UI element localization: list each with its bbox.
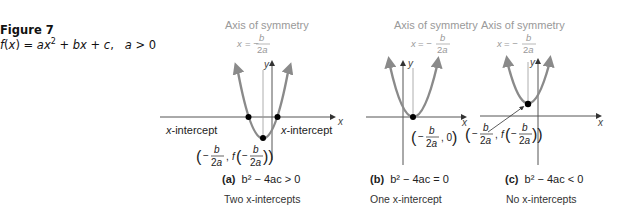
panel-c: Axis of symmetry x = − b 2a x y ( − b 2a… [465,19,604,165]
svg-text:2a: 2a [250,157,262,168]
svg-text:2a: 2a [257,44,268,55]
axis-of-symmetry-label-a: Axis of symmetry [225,19,309,31]
svg-text:x: x [496,38,503,49]
svg-text:b: b [526,32,531,43]
svg-text:x: x [337,116,344,127]
left-intercept-label: x-intercept [165,124,217,136]
vertex-point-a [260,135,266,141]
svg-text:b: b [440,32,445,43]
vertex-label-b: ( − b 2a , 0 ) [411,125,457,149]
svg-text:(: ( [196,148,202,165]
svg-text:y: y [529,57,536,68]
svg-text:= −: = − [418,38,432,49]
description-b: One x-intercept [370,193,442,205]
svg-text:x: x [597,117,604,128]
svg-text:−: − [472,128,478,139]
vertex-label-a: ( − b 2a , f ( − b 2a )) [196,144,274,168]
caption-c: (c) b² − 4ac < 0 [505,173,583,185]
svg-text:(: ( [411,129,417,146]
svg-text:−: − [203,150,209,161]
description-c: No x-intercepts [506,193,577,205]
panel-a: Axis of symmetry x = − b 2a x y x-interc… [160,19,344,168]
description-a: Two x-intercepts [224,193,300,205]
svg-text:b: b [483,122,489,133]
svg-text:−: − [418,131,424,142]
svg-text:2a: 2a [519,135,531,146]
svg-text:): ) [452,129,457,146]
svg-text:(: ( [465,126,471,143]
svg-text:x: x [236,38,243,49]
svg-text:x: x [410,38,417,49]
left-intercept-point [246,114,252,120]
svg-text:= −: = − [504,38,518,49]
svg-text:2a: 2a [211,157,223,168]
parabola-b [390,66,437,117]
caption-a: (a) b² − 4ac > 0 [222,173,300,185]
svg-text:2a: 2a [523,44,534,55]
svg-text:b: b [214,144,220,155]
svg-text:b: b [259,32,264,43]
svg-text:2a: 2a [480,135,492,146]
parabola-c [508,65,549,104]
caption-b: (b) b² − 4ac = 0 [370,173,449,185]
svg-text:−: − [511,128,517,139]
axis-of-symmetry-label-b: Axis of symmetry [394,19,478,31]
svg-text:, 0: , 0 [441,132,453,143]
vertex-point-c [525,101,531,107]
right-intercept-label: x-intercept [280,124,332,136]
vertex-point-b [410,114,416,120]
panel-b: Axis of symmetry x = − b 2a x y ( − b 2a… [366,19,478,165]
svg-text:,: , [495,129,498,140]
svg-text:−: − [242,150,248,161]
svg-text:b: b [522,122,528,133]
vertex-label-c: ( − b 2a , f ( − b 2a )) [465,122,543,146]
svg-text:2a: 2a [437,44,448,55]
svg-text:)): )) [263,148,274,165]
svg-text:y: y [263,59,270,70]
svg-text:b: b [253,144,259,155]
svg-text:,: , [226,151,229,162]
svg-text:y: y [407,58,414,69]
svg-text:)): )) [532,126,543,143]
svg-text:b: b [429,125,435,136]
svg-text:2a: 2a [426,138,438,149]
axis-of-symmetry-label-c: Axis of symmetry [481,19,565,31]
right-intercept-point [275,114,281,120]
